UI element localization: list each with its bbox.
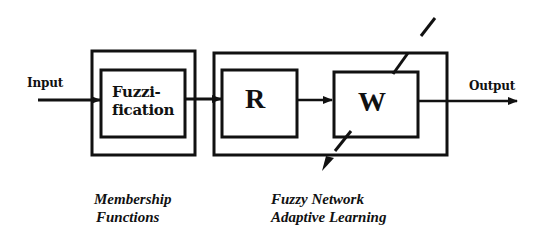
adaptive-arrowhead-bottom [322, 156, 334, 171]
network-caption-line1: Fuzzy Network [271, 190, 386, 208]
fuzzification-line2: fication [112, 101, 174, 119]
adaptive-slash-bottom [335, 131, 351, 151]
r-label: R [245, 83, 265, 115]
network-caption-line2: Adaptive Learning [271, 208, 386, 226]
fuzzy-network-caption: Fuzzy Network Adaptive Learning [271, 190, 386, 226]
membership-functions-caption: Membership Functions [94, 190, 172, 226]
membership-caption-line1: Membership [94, 190, 172, 208]
output-label: Output [469, 79, 515, 93]
fuzzification-label: Fuzzi- fication [112, 83, 174, 119]
adaptive-slash-top-dash [421, 18, 435, 36]
w-label: W [358, 86, 386, 118]
membership-caption-line2: Functions [94, 208, 172, 226]
input-label: Input [27, 76, 63, 90]
fuzzification-line1: Fuzzi- [112, 83, 174, 101]
